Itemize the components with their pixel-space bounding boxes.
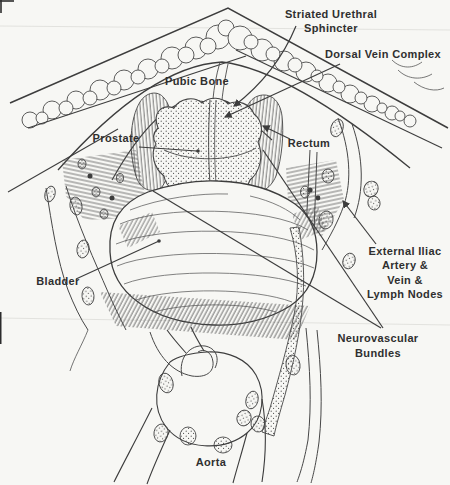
label-line: Artery & (367, 258, 443, 272)
label-line: Lymph Nodes (367, 287, 443, 301)
prostate-leader-dot (196, 149, 200, 153)
label-prostate: Prostate (93, 131, 140, 145)
label-line: Vein & (367, 273, 443, 287)
label-line: Striated Urethral (285, 7, 377, 21)
label-neurovascular-bundles: Neurovascular Bundles (338, 331, 419, 360)
label-striated-urethral-sphincter: Striated Urethral Sphincter (285, 7, 377, 35)
label-line: External Iliac (367, 244, 443, 258)
label-aorta: Aorta (196, 455, 226, 469)
label-dorsal-vein-complex: Dorsal Vein Complex (325, 47, 441, 61)
label-line: Neurovascular (338, 331, 419, 346)
label-external-iliac: External Iliac Artery & Vein & Lymph Nod… (367, 244, 443, 301)
label-line: Sphincter (285, 21, 377, 35)
anatomy-illustration (0, 0, 450, 485)
page-edge-marks (0, 0, 14, 344)
bladder-leader-dot (157, 239, 161, 243)
anatomy-illustration-page: Striated Urethral Sphincter Dorsal Vein … (0, 0, 450, 485)
peritoneal-folds (150, 332, 217, 376)
label-rectum: Rectum (288, 136, 330, 150)
label-bladder: Bladder (36, 274, 79, 288)
label-pubic-bone: Pubic Bone (165, 74, 229, 88)
epigastric-vessel-twigs (392, 60, 444, 90)
label-line: Bundles (338, 346, 419, 361)
